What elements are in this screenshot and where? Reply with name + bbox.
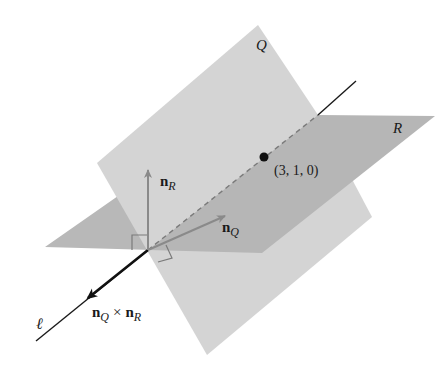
line-l-top: [318, 81, 356, 115]
plane-q-label: Q: [256, 37, 267, 53]
point-label: (3, 1, 0): [274, 163, 319, 179]
planes-intersection-diagram: Q R (3, 1, 0) nR nQ ℓ nQ×nR: [0, 0, 446, 368]
line-l-label: ℓ: [36, 315, 43, 332]
cross-product-label: nQ×nR: [92, 304, 142, 324]
point-marker: [260, 153, 269, 162]
cross-product-arrow: [88, 250, 148, 298]
plane-r-label: R: [392, 120, 402, 136]
